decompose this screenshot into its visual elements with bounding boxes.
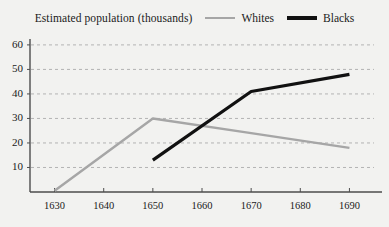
- x-tick-label: 1680: [280, 200, 320, 211]
- x-tick-label: 1640: [84, 200, 124, 211]
- y-tick-label: 30: [0, 112, 23, 123]
- gridlines-group: [31, 45, 374, 168]
- x-tick-label: 1660: [182, 200, 222, 211]
- series-lines-group: [55, 74, 350, 190]
- y-tick-label: 50: [0, 63, 23, 74]
- y-tick-label: 60: [0, 39, 23, 50]
- x-tick-label: 1630: [35, 200, 75, 211]
- x-tick-label: 1650: [133, 200, 173, 211]
- y-tick-label: 20: [0, 137, 23, 148]
- series-line-whites: [55, 118, 350, 190]
- plot-area: 102030405060 163016401650166016701680169…: [0, 0, 389, 227]
- chart-figure: Estimated population (thousands) Whites …: [0, 0, 389, 227]
- x-tick-label: 1670: [231, 200, 271, 211]
- plot-svg: [0, 0, 389, 227]
- series-line-blacks: [153, 74, 350, 160]
- y-tick-label: 10: [0, 161, 23, 172]
- x-tick-label: 1690: [329, 200, 369, 211]
- y-tick-label: 40: [0, 88, 23, 99]
